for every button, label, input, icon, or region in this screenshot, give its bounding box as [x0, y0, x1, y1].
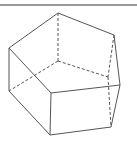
- edge-E2-D2: [9, 91, 50, 135]
- edge-D2-C2: [50, 127, 111, 135]
- hidden-edge-B-G: [108, 35, 114, 77]
- hidden-edge-F-G: [58, 61, 108, 77]
- edge-C-C2: [111, 85, 120, 127]
- edge-D-C: [51, 85, 120, 93]
- edge-E-D: [9, 48, 51, 93]
- hidden-edges: [9, 13, 114, 127]
- edge-A-B: [58, 13, 114, 35]
- pentagonal-prism-diagram: [0, 0, 137, 149]
- hidden-edge-F-E2: [9, 61, 58, 91]
- hidden-edge-G-C2: [108, 77, 111, 127]
- visible-edges: [9, 13, 120, 135]
- edge-E-A: [9, 13, 58, 48]
- edge-B-C: [114, 35, 120, 85]
- edge-D-D2: [50, 93, 51, 135]
